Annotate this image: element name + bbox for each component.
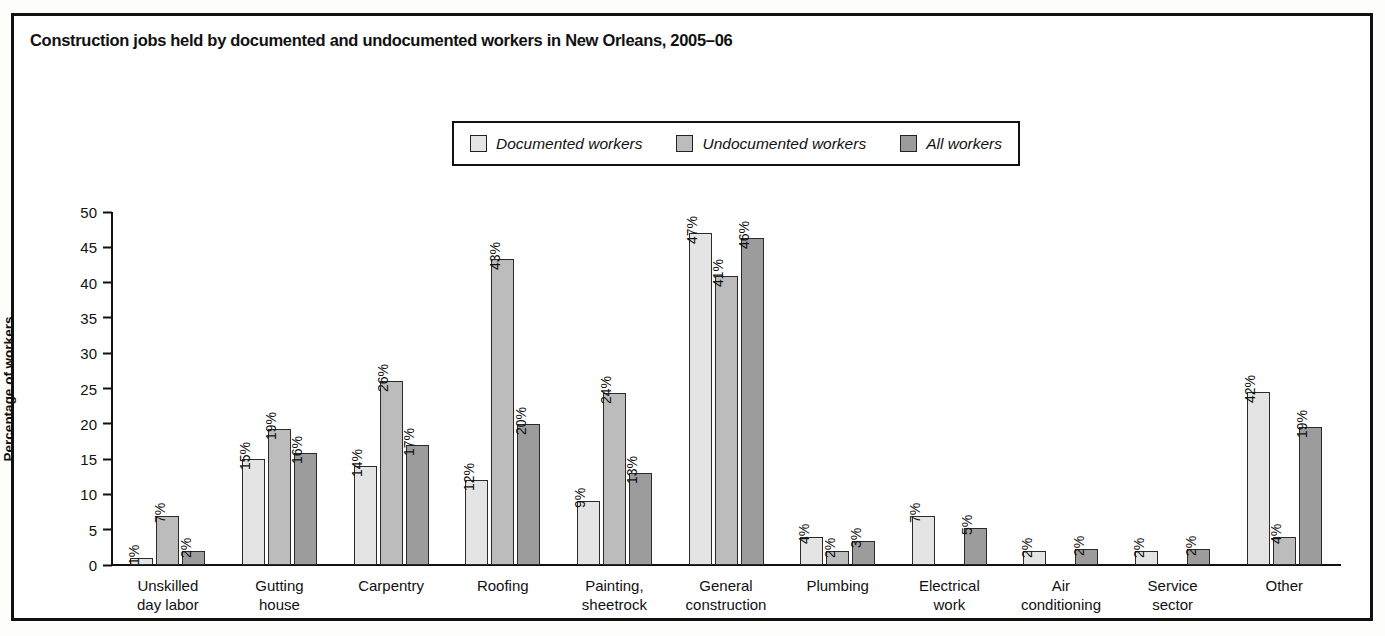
bar: 2% <box>826 551 849 565</box>
bar-group: 9%24%13%Painting,sheetrock <box>559 212 671 565</box>
bar: 26% <box>380 381 403 565</box>
bar-slot: 13% <box>629 212 652 565</box>
bar-group: 14%26%17%Carpentry <box>335 212 447 565</box>
chart-legend: Documented workersUndocumented workersAl… <box>452 121 1020 166</box>
y-axis-tick-mark <box>103 564 112 566</box>
bar: 16% <box>294 453 317 565</box>
bar: 2% <box>1135 551 1158 565</box>
bar-value-label: 2% <box>1131 538 1147 558</box>
bar: 2% <box>182 551 205 565</box>
bar-slot <box>1161 212 1184 565</box>
bar-slot: 19% <box>268 212 291 565</box>
y-axis-tick-mark <box>103 317 112 319</box>
bar-group: 15%19%16%Guttinghouse <box>224 212 336 565</box>
bar: 24% <box>603 393 626 565</box>
bar: 2% <box>1023 551 1046 565</box>
bar-slot: 7% <box>156 212 179 565</box>
y-axis-tick-label: 25 <box>80 380 97 397</box>
bar-value-label: 16% <box>289 436 305 464</box>
bar: 20% <box>517 424 540 565</box>
y-axis-tick: 50 <box>80 204 112 221</box>
bar: 2% <box>1187 549 1210 565</box>
y-axis-tick-label: 30 <box>80 345 97 362</box>
y-axis-tick-mark <box>103 211 112 213</box>
y-axis-title-text: Percentage of workers <box>1 316 16 461</box>
bar-slot: 14% <box>354 212 377 565</box>
bar-slot: 1% <box>130 212 153 565</box>
x-axis-category-label: Other <box>1206 577 1362 596</box>
y-axis-tick-mark <box>103 352 112 354</box>
y-axis-tick-label: 35 <box>80 309 97 326</box>
legend-item-2: All workers <box>900 135 1002 153</box>
plot-area: 05101520253035404550 1%7%2%Unskilledday … <box>112 212 1340 565</box>
bar-group: 47%41%46%Generalconstruction <box>670 212 782 565</box>
bar-value-label: 2% <box>822 538 838 558</box>
bar-value-label: 3% <box>848 528 864 548</box>
y-axis-tick: 35 <box>80 309 112 326</box>
bar-group: 1%7%2%Unskilledday labor <box>112 212 224 565</box>
bar-group: 7%5%Electricalwork <box>893 212 1005 565</box>
bar-slot: 5% <box>964 212 987 565</box>
y-axis-tick: 25 <box>80 380 112 397</box>
y-axis-tick-mark <box>103 282 112 284</box>
bar-value-label: 2% <box>1071 536 1087 556</box>
y-axis-tick-label: 15 <box>80 451 97 468</box>
y-axis-tick: 10 <box>80 486 112 503</box>
bar-slot: 24% <box>603 212 626 565</box>
y-axis-tick: 15 <box>80 451 112 468</box>
bar-value-label: 15% <box>237 442 253 470</box>
bar-slot: 2% <box>1023 212 1046 565</box>
bar-slot: 4% <box>800 212 823 565</box>
bar-slot: 3% <box>852 212 875 565</box>
bar: 41% <box>715 276 738 565</box>
bar: 19% <box>1299 427 1322 565</box>
bar-value-label: 9% <box>572 488 588 508</box>
bar-group: 12%43%20%Roofing <box>447 212 559 565</box>
bar-slot <box>938 212 961 565</box>
bar-slot: 20% <box>517 212 540 565</box>
legend-swatch-icon <box>676 135 693 152</box>
bar: 5% <box>964 528 987 565</box>
x-axis-category-line: sector <box>1095 596 1251 615</box>
legend-item-0: Documented workers <box>470 135 642 153</box>
bar-value-label: 41% <box>710 259 726 287</box>
x-axis-category-line: construction <box>648 596 804 615</box>
bar: 2% <box>1075 549 1098 565</box>
bar-value-label: 42% <box>1242 375 1258 403</box>
bar-value-label: 2% <box>178 538 194 558</box>
y-axis-tick-label: 10 <box>80 486 97 503</box>
bar-value-label: 2% <box>1019 538 1035 558</box>
bar: 1% <box>130 558 153 565</box>
bar: 9% <box>577 501 600 565</box>
bar: 7% <box>912 516 935 565</box>
bar-slot <box>1049 212 1072 565</box>
bar: 14% <box>354 466 377 565</box>
y-axis-tick-label: 20 <box>80 415 97 432</box>
bar-value-label: 47% <box>684 216 700 244</box>
bar: 19% <box>268 429 291 565</box>
legend-swatch-icon <box>900 135 917 152</box>
y-axis-tick: 40 <box>80 274 112 291</box>
bar-slot: 47% <box>689 212 712 565</box>
y-axis-tick: 0 <box>89 557 112 574</box>
y-axis-tick-label: 45 <box>80 239 97 256</box>
bar: 4% <box>1273 537 1296 565</box>
bar-slot: 4% <box>1273 212 1296 565</box>
bar: 43% <box>491 259 514 565</box>
bar-slot: 7% <box>912 212 935 565</box>
y-axis-tick: 45 <box>80 239 112 256</box>
bar: 47% <box>689 233 712 565</box>
y-axis-tick-mark <box>103 246 112 248</box>
bar-slot: 9% <box>577 212 600 565</box>
bar-value-label: 7% <box>152 502 168 522</box>
bar-slot: 26% <box>380 212 403 565</box>
bar-slot: 17% <box>406 212 429 565</box>
bar-value-label: 5% <box>959 514 975 534</box>
y-axis-tick: 30 <box>80 345 112 362</box>
bar: 7% <box>156 516 179 565</box>
y-axis-tick: 20 <box>80 415 112 432</box>
y-axis-tick-label: 5 <box>89 521 97 538</box>
y-axis-tick-mark <box>103 423 112 425</box>
y-axis-tick-label: 0 <box>89 557 97 574</box>
bar-value-label: 4% <box>796 524 812 544</box>
